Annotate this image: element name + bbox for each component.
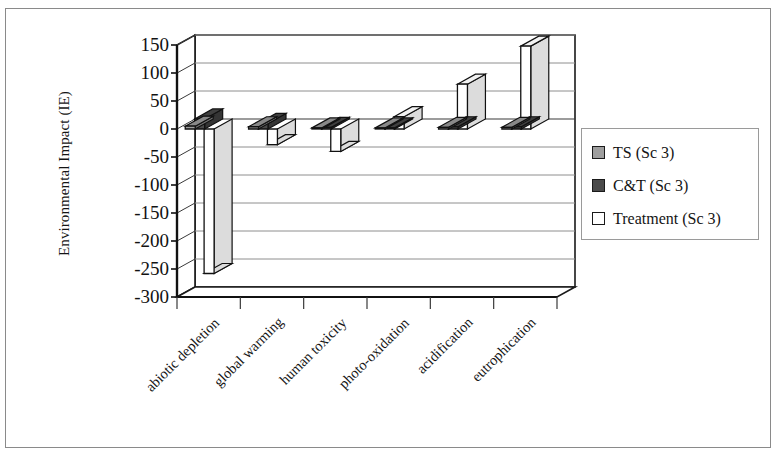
y-axis-tick-label: -150 bbox=[115, 203, 169, 222]
chart-left-wall bbox=[177, 35, 195, 297]
legend-item[interactable]: Treatment (Sc 3) bbox=[592, 207, 721, 229]
legend-label: C&T (Sc 3) bbox=[613, 177, 688, 194]
bar-0-4-front bbox=[439, 127, 449, 129]
bar-chart: Environmental Impact (IE) 150100500-50-1… bbox=[0, 0, 780, 456]
y-axis-tick-label: -300 bbox=[115, 287, 169, 306]
bar-2-1-front bbox=[267, 129, 277, 145]
bar-0-5-front bbox=[502, 127, 512, 129]
bar-0-1-front bbox=[249, 127, 259, 129]
y-axis-tick-label: -100 bbox=[115, 175, 169, 194]
chart-floor bbox=[177, 287, 575, 297]
legend-item[interactable]: TS (Sc 3) bbox=[592, 141, 674, 163]
legend-label: Treatment (Sc 3) bbox=[613, 210, 721, 227]
chart-legend: TS (Sc 3)C&T (Sc 3)Treatment (Sc 3) bbox=[581, 128, 759, 240]
bar-0-0-front bbox=[185, 126, 195, 129]
y-axis-tick-label: 50 bbox=[115, 91, 169, 110]
y-axis-tick-label: -200 bbox=[115, 231, 169, 250]
legend-label: TS (Sc 3) bbox=[613, 144, 674, 161]
y-axis-tick-label: -50 bbox=[115, 147, 169, 166]
bar-0-2-front bbox=[312, 128, 322, 129]
y-axis-tick-label: 100 bbox=[115, 63, 169, 82]
y-axis-tick-label: 150 bbox=[115, 35, 169, 54]
bar-2-2-front bbox=[331, 129, 341, 151]
bar-2-5-side bbox=[531, 36, 549, 129]
y-axis-tick-label: -250 bbox=[115, 259, 169, 278]
legend-swatch-icon bbox=[592, 179, 605, 192]
bar-0-3-front bbox=[375, 128, 385, 129]
legend-item[interactable]: C&T (Sc 3) bbox=[592, 174, 688, 196]
legend-swatch-icon bbox=[592, 146, 605, 159]
y-axis-title: Environmental Impact (IE) bbox=[56, 49, 73, 299]
y-axis-tick-label: 0 bbox=[115, 119, 169, 138]
legend-swatch-icon bbox=[592, 212, 605, 225]
chart-back-wall bbox=[195, 35, 575, 287]
bar-2-0-side bbox=[214, 119, 232, 273]
bar-2-0-front bbox=[204, 129, 214, 273]
